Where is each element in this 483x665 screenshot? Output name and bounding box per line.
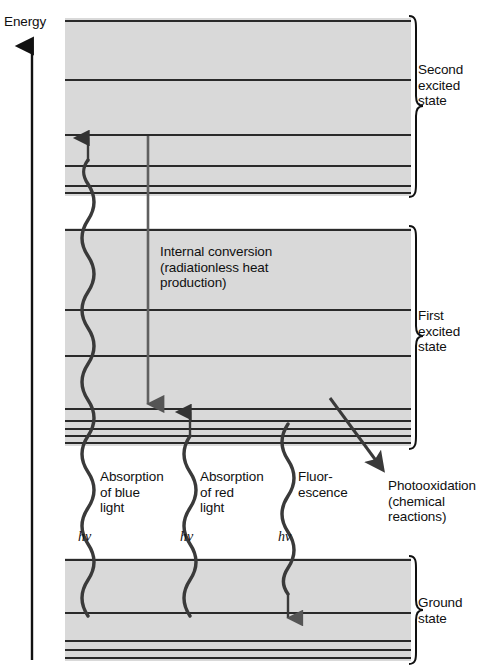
internal-conversion-label: Internal conversion (radiationless heat … (160, 244, 272, 291)
energy-axis-label: Energy (4, 14, 46, 30)
photon-label-absorption-red: hv (180, 529, 193, 545)
band-second-excited-state (65, 18, 411, 196)
absorption-blue-label: Absorption of blue light (100, 469, 164, 516)
second-excited-state-label: Second excited state (418, 62, 463, 109)
ground-state-label: Ground state (418, 595, 462, 626)
photooxidation-label: Photooxidation (chemical reactions) (388, 478, 476, 525)
jablonski-diagram: Energy Second excited state First excite… (0, 0, 483, 665)
band-ground-state (65, 558, 411, 661)
photon-label-fluorescence: hv (278, 529, 291, 545)
photon-label-absorption-blue: hv (78, 529, 91, 545)
state-bands (65, 18, 411, 661)
absorption-red-label: Absorption of red light (200, 469, 264, 516)
fluorescence-label: Fluor- escence (298, 469, 348, 500)
first-excited-state-label: First excited state (418, 308, 460, 355)
diagram-canvas (0, 0, 483, 665)
